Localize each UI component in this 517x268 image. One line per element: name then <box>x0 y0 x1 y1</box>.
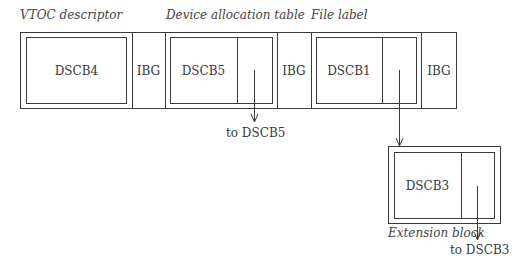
arrows-layer <box>0 0 517 268</box>
arrow-down-icon <box>396 70 403 146</box>
arrow-down-icon <box>474 186 481 240</box>
arrow-down-icon <box>251 70 258 122</box>
